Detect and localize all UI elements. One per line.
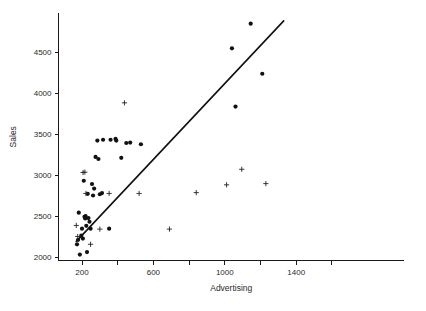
data-point-cross	[97, 227, 102, 232]
data-point-dot	[78, 252, 82, 256]
y-tick-label-4000: 4000	[34, 89, 52, 98]
data-point-dot	[119, 156, 123, 160]
data-point-dot	[128, 141, 132, 145]
data-point-dot	[230, 46, 234, 50]
data-point-cross	[74, 223, 79, 228]
data-point-dot	[114, 138, 118, 142]
data-point-dot	[75, 242, 79, 246]
data-point-dot	[87, 220, 91, 224]
regression-line	[76, 21, 283, 242]
x-axis-title: Advertising	[210, 283, 252, 293]
data-point-dot	[86, 216, 90, 220]
y-tick-label-4500: 4500	[34, 48, 52, 57]
y-axis-title: Sales	[8, 126, 18, 147]
data-point-dot	[80, 227, 84, 231]
data-point-dot	[92, 186, 96, 190]
scatter-plot-figure: 20002500300035004000450020060010001400Ad…	[0, 0, 426, 311]
data-point-cross	[107, 191, 112, 196]
data-point-dot	[88, 227, 92, 231]
data-point-dot	[81, 236, 85, 240]
y-tick-label-2000: 2000	[34, 253, 52, 262]
data-point-dot	[82, 179, 86, 183]
data-point-dot	[85, 250, 89, 254]
data-point-dot	[77, 211, 81, 215]
data-point-dot	[95, 138, 99, 142]
data-point-cross	[137, 191, 142, 196]
data-point-dot	[107, 227, 111, 231]
x-tick-label-600: 600	[147, 268, 161, 277]
data-point-dot	[84, 224, 88, 228]
data-point-cross	[224, 182, 229, 187]
data-point-dot	[91, 193, 95, 197]
y-tick-label-3500: 3500	[34, 130, 52, 139]
data-point-cross	[122, 100, 127, 105]
data-point-dot	[233, 104, 237, 108]
data-point-dot	[90, 182, 94, 186]
y-tick-label-3000: 3000	[34, 171, 52, 180]
data-point-dot	[100, 191, 104, 195]
x-tick-label-200: 200	[75, 268, 89, 277]
data-point-dot	[139, 142, 143, 146]
data-point-dot	[108, 138, 112, 142]
data-point-dot	[101, 138, 105, 142]
chart-canvas: 20002500300035004000450020060010001400Ad…	[0, 0, 426, 311]
y-tick-label-2500: 2500	[34, 212, 52, 221]
x-tick-label-1000: 1000	[216, 268, 234, 277]
data-point-cross	[88, 242, 93, 247]
x-tick-label-1400: 1400	[287, 268, 305, 277]
data-point-dot	[260, 72, 264, 76]
data-point-cross	[239, 167, 244, 172]
data-point-dot	[124, 141, 128, 145]
data-point-cross	[167, 227, 172, 232]
data-point-cross	[263, 181, 268, 186]
data-point-dot	[96, 157, 100, 161]
data-point-dot	[249, 22, 253, 26]
data-point-cross	[194, 190, 199, 195]
